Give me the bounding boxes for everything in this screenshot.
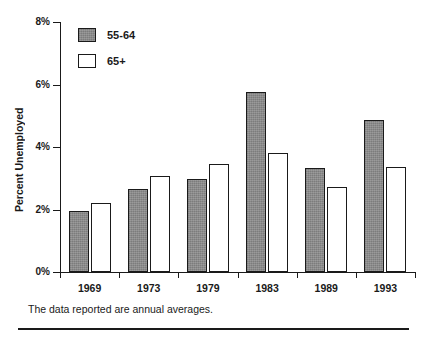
y-tick-label: 8%: [36, 15, 50, 28]
legend-swatch: [78, 54, 96, 68]
legend: 55-6465+: [78, 22, 188, 74]
bar: [209, 164, 229, 272]
bar-chart-figure: Percent Unemployed 0%2%4%6%8% 1969197319…: [0, 0, 427, 340]
x-axis-label: 1983: [238, 282, 297, 295]
y-tick-mark: [53, 85, 60, 86]
y-axis-title: Percent Unemployed: [12, 80, 26, 240]
x-tick-mark: [119, 272, 120, 278]
legend-item: 65+: [78, 48, 188, 74]
y-tick-mark: [53, 22, 60, 23]
bar: [128, 189, 148, 272]
bar: [150, 176, 170, 272]
legend-item: 55-64: [78, 22, 188, 48]
bar: [268, 153, 288, 272]
bar: [187, 179, 207, 272]
bar: [327, 187, 347, 272]
legend-swatch: [78, 28, 96, 42]
bar-group: [238, 22, 297, 272]
bar: [305, 168, 325, 272]
legend-label: 55-64: [107, 29, 135, 41]
y-tick-mark: [53, 147, 60, 148]
bottom-rule: [18, 328, 409, 330]
bar: [364, 120, 384, 272]
x-tick-mark: [238, 272, 239, 278]
y-tick-label: 4%: [36, 140, 50, 153]
bar-group: [356, 22, 415, 272]
y-tick-label: 6%: [36, 78, 50, 91]
y-tick-label: 0%: [36, 265, 50, 278]
bar: [386, 167, 406, 272]
x-axis-label: 1969: [60, 282, 119, 295]
x-axis-label: 1989: [297, 282, 356, 295]
bar: [246, 92, 266, 272]
x-tick-mark: [60, 272, 61, 278]
x-axis-label: 1979: [178, 282, 237, 295]
bar: [91, 203, 111, 272]
bar-group: [297, 22, 356, 272]
x-axis-label: 1993: [356, 282, 415, 295]
x-tick-mark: [356, 272, 357, 278]
y-tick-mark: [53, 210, 60, 211]
x-tick-mark: [415, 272, 416, 278]
x-axis-label: 1973: [119, 282, 178, 295]
footnote-text: The data reported are annual averages.: [28, 302, 213, 316]
legend-label: 65+: [107, 55, 126, 67]
x-tick-mark: [297, 272, 298, 278]
y-tick-label: 2%: [36, 203, 50, 216]
y-tick-mark: [53, 272, 60, 273]
bar: [69, 211, 89, 272]
x-tick-mark: [178, 272, 179, 278]
